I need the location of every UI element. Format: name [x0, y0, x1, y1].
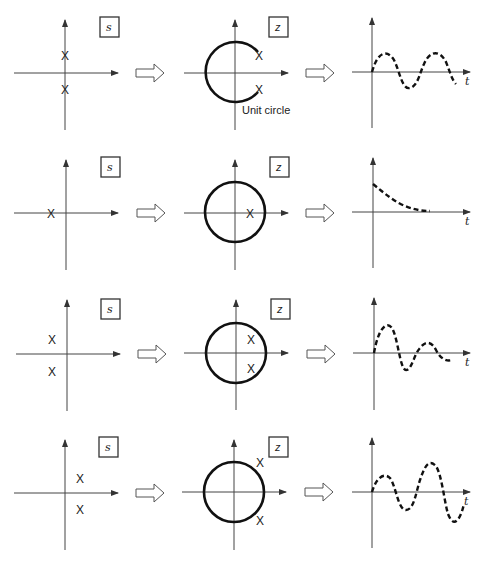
time-response: t: [352, 438, 470, 548]
s-plane: s X X: [16, 299, 120, 411]
z-plane-label: z: [274, 441, 281, 453]
pole-marker: X: [61, 49, 69, 63]
pole-marker: X: [76, 503, 84, 517]
row-growing: s X X z X X t: [14, 437, 470, 550]
oscillation-curve: [372, 53, 456, 88]
z-plane: z X X: [182, 437, 288, 550]
s-plane-label: s: [107, 303, 113, 316]
right-arrow-icon: [136, 64, 164, 82]
map-arrow: [306, 204, 334, 222]
pole-marker: X: [255, 83, 263, 97]
map-arrow: [307, 345, 335, 363]
z-plane: z X: [184, 157, 289, 270]
map-arrow: [306, 64, 334, 82]
right-arrow-icon: [307, 345, 335, 363]
map-arrow: [305, 483, 333, 501]
right-arrow-icon: [305, 483, 333, 501]
pole-marker: X: [76, 472, 84, 486]
right-arrow-icon: [138, 345, 166, 363]
right-arrow-icon: [306, 64, 334, 82]
right-arrow-icon: [136, 484, 164, 502]
map-arrow: [136, 484, 164, 502]
z-plane-label: z: [274, 21, 281, 33]
unit-circle: [206, 42, 258, 102]
time-axis-label: t: [465, 75, 470, 88]
time-axis-label: t: [465, 215, 470, 228]
s-to-z-mapping-diagram: s X X z X X Unit circle t: [0, 0, 490, 564]
right-arrow-icon: [137, 204, 165, 222]
s-plane: s X X: [14, 437, 118, 550]
row-decaying: s X z X t: [14, 157, 470, 270]
map-arrow: [137, 204, 165, 222]
unit-circle-label: Unit circle: [242, 104, 290, 116]
time-response: t: [353, 298, 470, 410]
pole-marker: X: [256, 514, 264, 528]
row-damped: s X X z X X t: [16, 298, 470, 411]
s-plane-label: s: [107, 161, 113, 174]
right-arrow-icon: [306, 204, 334, 222]
z-plane-label: z: [275, 161, 282, 173]
s-plane: s X: [14, 157, 120, 270]
map-arrow: [138, 345, 166, 363]
s-plane: s X X: [14, 17, 119, 130]
row-oscillatory: s X X z X X Unit circle t: [14, 17, 470, 130]
pole-marker: X: [247, 333, 255, 347]
s-plane-label: s: [106, 21, 112, 34]
pole-marker: X: [246, 207, 254, 221]
time-response: t: [352, 18, 470, 128]
z-plane: z X X: [184, 299, 290, 410]
pole-marker: X: [247, 362, 255, 376]
time-axis-label: t: [465, 356, 470, 369]
pole-marker: X: [61, 83, 69, 97]
pole-marker: X: [256, 456, 264, 470]
pole-marker: X: [48, 365, 56, 379]
pole-marker: X: [48, 333, 56, 347]
s-plane-label: s: [105, 441, 111, 454]
time-axis-label: t: [464, 495, 469, 508]
decay-curve: [373, 184, 430, 211]
time-response: t: [352, 158, 470, 268]
z-plane: z X X Unit circle: [184, 17, 290, 130]
z-plane-label: z: [276, 303, 283, 315]
map-arrow: [136, 64, 164, 82]
pole-marker: X: [255, 49, 263, 63]
pole-marker: X: [47, 207, 55, 221]
damped-oscillation-curve: [374, 325, 452, 370]
